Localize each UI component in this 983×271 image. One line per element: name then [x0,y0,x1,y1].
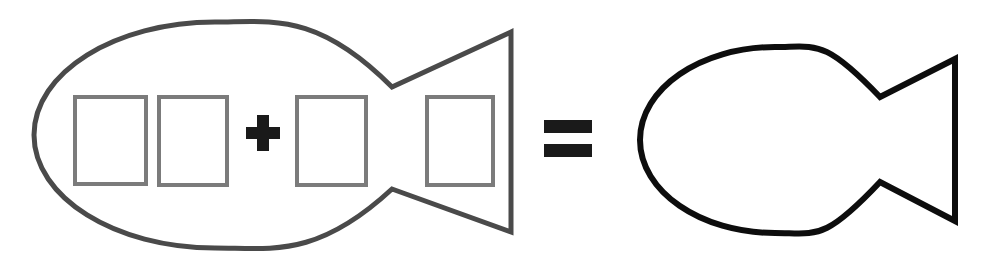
right-fish-group [640,46,955,233]
slot-rectangle-3[interactable] [297,97,366,185]
equals-sign-group [544,120,592,157]
plus-icon-vertical-bar [257,115,269,151]
equals-icon-bottom-bar [544,144,592,157]
diagram-canvas: Fish outline containing four empty recta… [0,0,983,271]
right-fish-outline-icon [640,46,955,233]
slot-rectangle-2[interactable] [159,97,227,185]
equals-icon-top-bar [544,120,592,133]
fish-equation-diagram [0,0,983,271]
slot-rectangle-4[interactable] [427,97,493,185]
slot-group [75,97,493,185]
plus-sign-group [246,115,280,151]
slot-rectangle-1[interactable] [75,97,146,184]
